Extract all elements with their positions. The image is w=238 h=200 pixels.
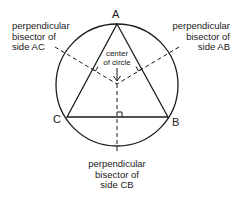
bisector-ab-label: perpendicular bisector of side AB [172,21,230,53]
vertex-b-label: B [172,116,179,128]
bisector-cb-label: perpendicular bisector of side CB [82,159,152,191]
vertex-c-label: C [53,113,61,125]
right-angle-mark-ab [136,67,143,72]
center-of-circle-label: center of circle [97,49,137,67]
bisector-ac-label: perpendicular bisector of side AC [12,21,70,53]
right-angle-mark-cb [117,112,122,117]
vertex-a-label: A [112,8,119,20]
